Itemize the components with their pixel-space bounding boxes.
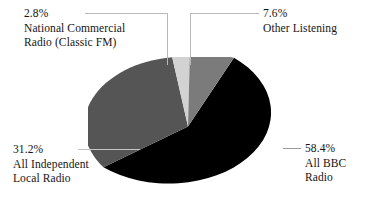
- slice-label-ilr-line2: Local Radio: [13, 171, 89, 186]
- pie-chart-figure: 2.8% National Commercial Radio (Classic …: [0, 0, 367, 205]
- slice-label-classic-fm-line2: Radio (Classic FM): [24, 35, 125, 50]
- slice-label-bbc-line1: All BBC: [305, 156, 346, 171]
- pie-chart-svg: [88, 57, 288, 196]
- slice-label-bbc-percent: 58.4%: [305, 141, 346, 156]
- slice-label-ilr-line1: All Independent: [13, 157, 89, 172]
- leader-line-bbc: [283, 148, 301, 149]
- slice-label-other-listening: 7.6% Other Listening: [263, 6, 337, 35]
- leader-line-other-listening-vertical: [190, 13, 191, 65]
- slice-label-classic-fm-line1: National Commercial: [24, 21, 125, 36]
- slice-label-other-listening-line1: Other Listening: [263, 21, 337, 36]
- slice-label-classic-fm: 2.8% National Commercial Radio (Classic …: [24, 6, 125, 50]
- slice-label-bbc-line2: Radio: [305, 170, 346, 185]
- pie-chart: [88, 57, 288, 196]
- slice-label-other-listening-percent: 7.6%: [263, 6, 337, 21]
- slice-label-bbc: 58.4% All BBC Radio: [305, 141, 346, 185]
- slice-label-ilr: 31.2% All Independent Local Radio: [13, 142, 89, 186]
- slice-label-ilr-percent: 31.2%: [13, 142, 89, 157]
- slice-label-classic-fm-percent: 2.8%: [24, 6, 125, 21]
- leader-line-other-listening-horizontal: [190, 13, 259, 14]
- leader-line-classic-fm-vertical: [167, 13, 168, 65]
